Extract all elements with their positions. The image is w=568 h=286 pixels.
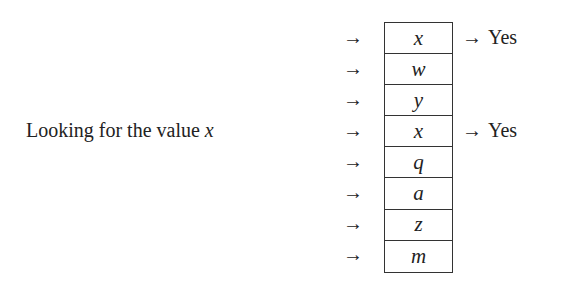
right-arrow-icon: → [343,27,363,47]
array-cell: x [385,116,452,147]
array-cell: w [385,54,452,85]
array-column: x w y x q a z m [384,22,453,273]
right-arrow-icon: → [343,58,363,78]
right-arrow-icon: → [343,151,363,171]
match-label: Yes [488,119,517,141]
right-arrow-icon: → [343,244,363,264]
array-cell: m [385,241,452,272]
right-arrow-icon: → [343,182,363,202]
array-cell: a [385,178,452,209]
match-indicator: →Yes [462,120,517,140]
caption-text: Looking for the value [26,119,205,141]
right-arrow-icon: → [343,89,363,109]
caption-variable: x [205,119,214,141]
array-cell: y [385,85,452,116]
array-cell: x [385,23,452,54]
right-arrow-icon: → [343,120,363,140]
right-arrow-icon: → [462,119,482,141]
array-cell: q [385,147,452,178]
right-arrow-icon: → [343,213,363,233]
right-arrow-icon: → [462,26,482,48]
match-label: Yes [488,26,517,48]
array-cell: z [385,210,452,241]
match-indicator: →Yes [462,27,517,47]
search-caption: Looking for the value x [26,119,214,142]
